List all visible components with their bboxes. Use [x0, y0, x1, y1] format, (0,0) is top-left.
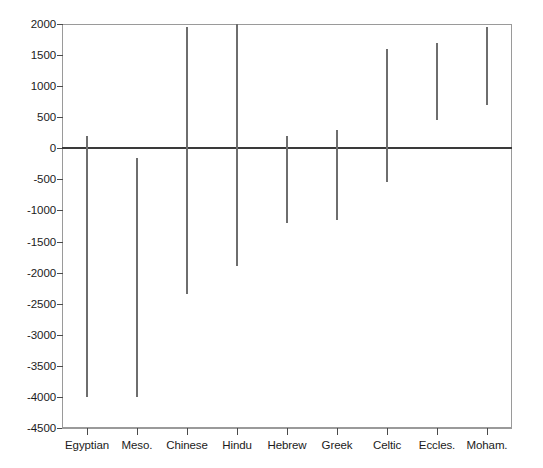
y-axis-tick-label: -1000 [8, 205, 56, 215]
y-axis-tick: 0 [0, 143, 56, 153]
x-axis-tick-label: Egyptian [65, 439, 109, 451]
x-axis-tick-mark [87, 428, 88, 435]
y-axis-tick-label: -4500 [8, 423, 56, 433]
y-axis-tick-mark [57, 86, 63, 87]
x-axis-tick-label: Celtic [373, 439, 401, 451]
x-axis-tick-label: Hindu [222, 439, 252, 451]
y-axis-tick: -2000 [0, 268, 56, 278]
y-axis-tick: 500 [0, 112, 56, 122]
data-bar [236, 24, 238, 266]
y-axis-tick-mark [57, 397, 63, 398]
y-axis-tick-label: 2000 [8, 19, 56, 29]
y-axis-tick: 1500 [0, 50, 56, 60]
y-axis-tick-label: 1500 [8, 50, 56, 60]
y-axis-tick-label: -1500 [8, 237, 56, 247]
x-axis-tick-label: Chinese [166, 439, 208, 451]
x-axis-tick-mark [387, 428, 388, 435]
y-axis-tick: -4500 [0, 423, 56, 433]
x-axis-tick-label: Eccles. [419, 439, 455, 451]
x-axis-tick-mark [187, 428, 188, 435]
data-bar [386, 49, 388, 183]
y-axis-tick-mark [57, 210, 63, 211]
y-axis-tick-label: -500 [8, 174, 56, 184]
y-axis-tick-mark [57, 179, 63, 180]
y-axis-tick-label: -2500 [8, 299, 56, 309]
y-axis-tick: -500 [0, 174, 56, 184]
y-axis-tick-label: 500 [8, 112, 56, 122]
y-axis-tick-label: -2000 [8, 268, 56, 278]
chart-container: 2000150010005000-500-1000-1500-2000-2500… [0, 0, 543, 468]
y-axis-tick: -2500 [0, 299, 56, 309]
y-axis-tick-mark [57, 242, 63, 243]
x-axis-tick-mark [337, 428, 338, 435]
y-axis-tick: 2000 [0, 19, 56, 29]
y-axis-tick-label: -3000 [8, 330, 56, 340]
data-bar [486, 27, 488, 105]
x-axis-tick-mark [487, 428, 488, 435]
data-bar [86, 136, 88, 397]
x-axis-tick-label: Meso. [122, 439, 153, 451]
data-bar [286, 136, 288, 223]
y-axis-tick: -4000 [0, 392, 56, 402]
y-axis-tick-mark [57, 304, 63, 305]
data-bar [436, 43, 438, 121]
y-axis-tick: -3500 [0, 361, 56, 371]
data-bar [136, 158, 138, 397]
x-axis-tick-mark [287, 428, 288, 435]
y-axis-tick-mark [57, 335, 63, 336]
x-axis-tick-label: Greek [322, 439, 353, 451]
y-axis-tick: -1500 [0, 237, 56, 247]
y-axis-tick-label: -3500 [8, 361, 56, 371]
y-axis-tick-mark [57, 273, 63, 274]
y-axis-tick-label: -4000 [8, 392, 56, 402]
x-axis-tick-label: Hebrew [267, 439, 306, 451]
x-axis-tick-mark [237, 428, 238, 435]
x-axis-tick-label: Moham. [467, 439, 508, 451]
y-axis-tick-label: 0 [8, 143, 56, 153]
y-axis-tick-mark [57, 24, 63, 25]
plot-area-frame [62, 24, 512, 428]
y-axis-tick-mark [57, 55, 63, 56]
x-axis-tick-mark [437, 428, 438, 435]
x-axis-tick-mark [137, 428, 138, 435]
y-axis-tick: 1000 [0, 81, 56, 91]
y-axis-tick: -1000 [0, 205, 56, 215]
y-axis-tick: -3000 [0, 330, 56, 340]
data-bar [186, 27, 188, 294]
y-axis-tick-mark [57, 366, 63, 367]
data-bar [336, 130, 338, 220]
y-axis-tick-mark [57, 117, 63, 118]
y-axis-tick-label: 1000 [8, 81, 56, 91]
